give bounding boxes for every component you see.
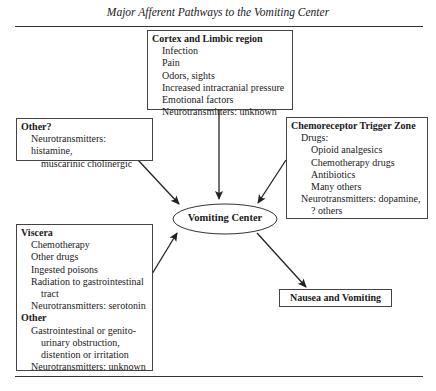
- ctz-box: Chemoreceptor Trigger Zone Drugs: Opioid…: [286, 117, 428, 219]
- viscera-other-line: urinary obstruction,: [21, 337, 148, 349]
- cortex-item: Pain: [152, 57, 288, 69]
- cortex-item: Emotional factors: [152, 94, 288, 106]
- outcome-label: Nausea and Vomiting: [290, 292, 381, 303]
- ctz-drug: Chemotherapy drugs: [291, 157, 423, 169]
- arrow-ctz: [258, 160, 286, 203]
- outcome-box: Nausea and Vomiting: [279, 289, 392, 307]
- viscera-other-line: distention or irritation: [21, 349, 148, 361]
- ctz-drug: Many others: [291, 181, 423, 193]
- viscera-box: Viscera Chemotherapy Other drugs Ingeste…: [16, 224, 153, 371]
- viscera-other-line: Gastrointestinal or genito-: [21, 325, 148, 337]
- viscera-heading: Viscera: [21, 227, 148, 239]
- ctz-drug: Opioid analgesics: [291, 144, 423, 156]
- other-heading: Other?: [21, 121, 148, 133]
- viscera-item-cont: tract: [21, 288, 148, 300]
- other-line: Neurotransmitters: histamine,: [21, 133, 148, 157]
- viscera-item: Chemotherapy: [21, 239, 148, 251]
- cortex-heading: Cortex and Limbic region: [152, 33, 288, 45]
- ctz-drug: Antibiotics: [291, 169, 423, 181]
- other-box: Other? Neurotransmitters: histamine, mus…: [16, 118, 153, 161]
- viscera-nt: Neurotransmitters: serotonin: [21, 300, 148, 312]
- vomiting-center-label: Vomiting Center: [173, 212, 277, 223]
- viscera-other-nt: Neurotransmitters: unknown: [21, 361, 148, 373]
- viscera-other-heading: Other: [21, 312, 148, 324]
- arrow-viscera: [152, 233, 177, 274]
- cortex-item: Neurotransmitters: unknown: [152, 106, 288, 118]
- cortex-item: Increased intracranial pressure: [152, 82, 288, 94]
- cortex-item: Odors, sights: [152, 70, 288, 82]
- ctz-nt: Neurotransmitters: dopamine,: [291, 193, 423, 205]
- ctz-drugs-label: Drugs:: [291, 132, 423, 144]
- cortex-item: Infection: [152, 45, 288, 57]
- viscera-item: Other drugs: [21, 251, 148, 263]
- cortex-box: Cortex and Limbic region Infection Pain …: [147, 30, 293, 110]
- arrow-outcome: [257, 233, 306, 287]
- ctz-nt-cont: ? others: [291, 205, 423, 217]
- viscera-item: Radiation to gastrointestinal: [21, 276, 148, 288]
- viscera-item: Ingested poisons: [21, 264, 148, 276]
- other-line: muscarinic cholinergic: [21, 158, 148, 170]
- ctz-heading: Chemoreceptor Trigger Zone: [291, 120, 423, 132]
